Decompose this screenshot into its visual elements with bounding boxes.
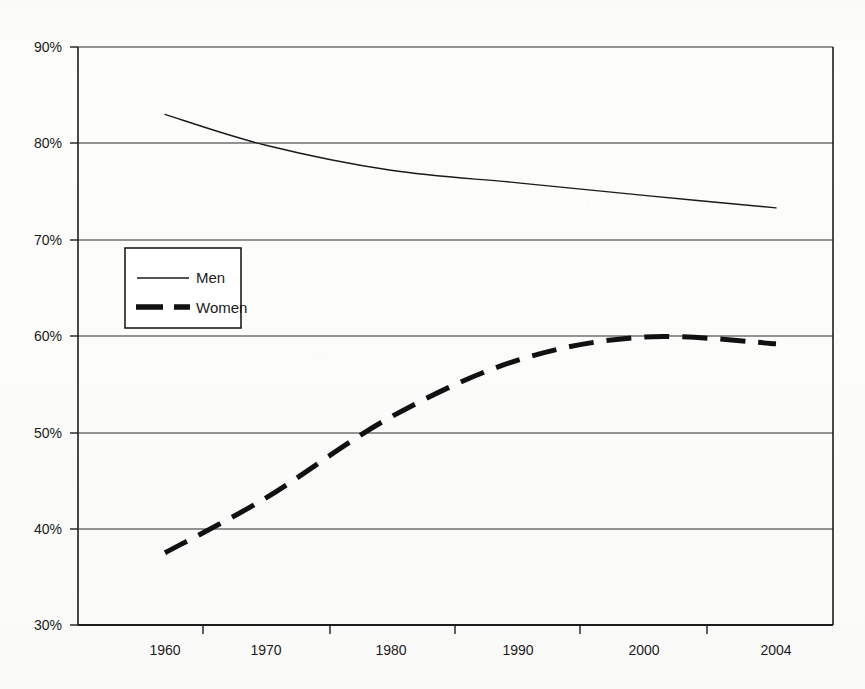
y-tick-label-60: 60%: [34, 328, 62, 344]
y-tick-label-40: 40%: [34, 521, 62, 537]
x-tick-label-1990: 1990: [502, 642, 533, 658]
x-tick-marks: [203, 625, 707, 634]
x-tick-label-1970: 1970: [250, 642, 281, 658]
line-chart: 90% 80% 70% 60% 50% 40% 30% 1960 1970 19…: [0, 0, 865, 689]
legend-label-men: Men: [196, 269, 225, 286]
y-tick-label-90: 90%: [34, 39, 62, 55]
series-line-women: [165, 336, 776, 552]
data-series: [165, 114, 776, 552]
legend: Men Women: [125, 248, 247, 328]
y-tick-label-30: 30%: [34, 617, 62, 633]
x-tick-label-2000: 2000: [628, 642, 659, 658]
y-tick-marks: [70, 47, 78, 625]
chart-page: 90% 80% 70% 60% 50% 40% 30% 1960 1970 19…: [0, 0, 865, 689]
x-tick-label-1980: 1980: [375, 642, 406, 658]
x-axis-labels: 1960 1970 1980 1990 2000 2004: [149, 642, 791, 658]
legend-box: [125, 248, 241, 328]
x-tick-label-1960: 1960: [149, 642, 180, 658]
x-tick-label-2004: 2004: [760, 642, 791, 658]
series-line-men: [165, 114, 776, 207]
y-tick-label-80: 80%: [34, 135, 62, 151]
y-tick-label-50: 50%: [34, 425, 62, 441]
legend-label-women: Women: [196, 299, 247, 316]
y-tick-label-70: 70%: [34, 232, 62, 248]
y-axis-labels: 90% 80% 70% 60% 50% 40% 30%: [34, 39, 62, 633]
